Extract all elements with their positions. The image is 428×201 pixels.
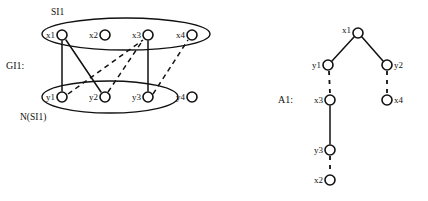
group-label-bottom-set: N(SI1) [20,112,46,123]
edge-t-x1-t-y1 [332,37,354,61]
node-label-x1: x1 [46,30,55,40]
node-x1 [57,30,67,40]
node-y1 [57,92,67,102]
edge-t-y1-t-x3 [329,71,330,94]
panel-label-bipartite: GI1: [6,60,24,71]
node-label-t-x2: x2 [314,175,323,185]
node-y4 [187,92,197,102]
node-label-x2: x2 [89,30,98,40]
edge-y1-x3 [68,40,143,94]
node-t-y3 [325,145,335,155]
edge-y2-x2 [108,40,143,92]
node-label-t-y3: y3 [314,145,324,155]
node-y2 [100,92,110,102]
alternating-tree-panel: x1 y1 y2 x3 x4 y3 x2 A1: [278,25,404,185]
node-y3 [143,92,153,102]
node-x4 [187,30,197,40]
node-label-t-y1: y1 [312,60,321,70]
node-t-x4 [382,95,392,105]
node-label-t-x1: x1 [342,25,351,35]
node-t-y2 [382,60,392,70]
node-x3 [143,30,153,40]
node-t-x2 [325,175,335,185]
node-label-y2: y2 [89,92,98,102]
node-t-y1 [323,60,333,70]
panel-label-alternating-tree: A1: [278,94,293,105]
node-label-t-x4: x4 [394,95,404,105]
node-label-t-y2: y2 [394,60,403,70]
group-label-top-set: SI1 [51,7,64,17]
node-t-x3 [325,95,335,105]
node-label-t-x3: x3 [314,95,324,105]
node-label-x3: x3 [132,30,142,40]
figure-canvas: x1 x2 x3 x4 y1 y2 y3 y4 SI1 N(SI1) GI1: [0,0,428,201]
bipartite-panel: x1 x2 x3 x4 y1 y2 y3 y4 SI1 N(SI1) GI1: [6,7,210,123]
node-label-y3: y3 [132,92,142,102]
node-label-x4: x4 [176,30,186,40]
node-x2 [100,30,110,40]
node-label-y4: y4 [176,92,186,102]
node-label-y1: y1 [46,92,55,102]
node-t-x1 [353,28,363,38]
edge-t-x1-t-y2 [362,37,383,61]
